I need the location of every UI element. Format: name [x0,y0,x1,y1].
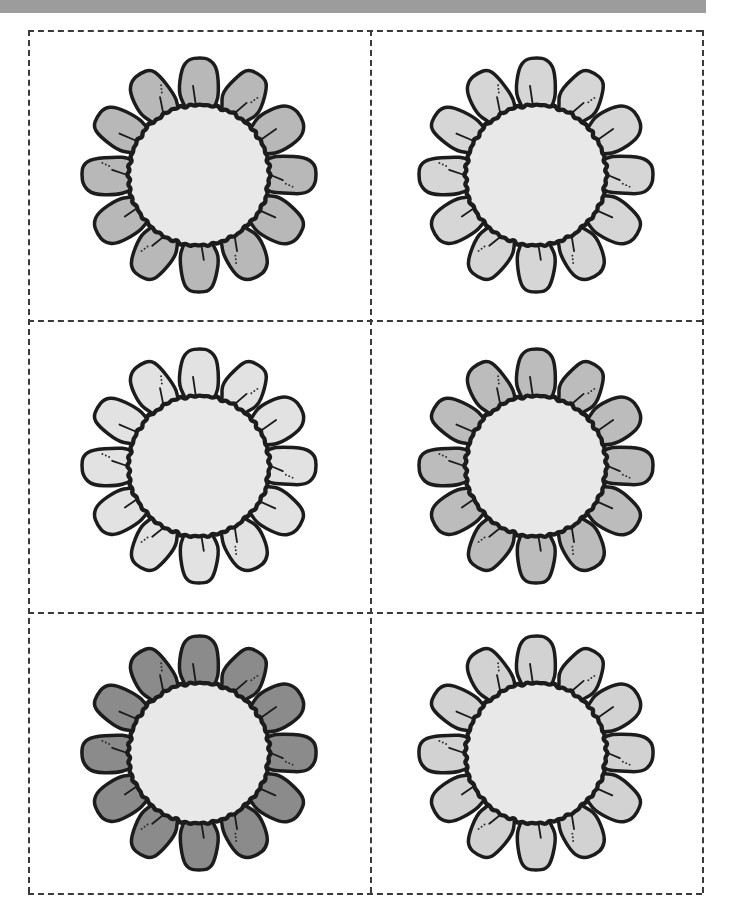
flower-cell-bottom-left[interactable] [28,612,370,893]
petal-speck [161,383,163,385]
petal-speck [442,455,444,457]
petal-speck [571,546,573,548]
petal-speck [497,379,499,381]
petal-speck [101,453,103,455]
petal-speck [253,390,255,392]
petal-speck [256,674,258,676]
petal-speck [497,662,499,664]
petal-speck [478,541,480,543]
flower-center-disc [127,396,270,537]
petal-speck [572,258,574,260]
petal-speck [498,669,500,671]
flower-illustration [411,628,661,878]
petal-speck [587,101,589,103]
petal-speck [285,760,287,762]
cut-line-bottom [28,893,702,895]
petal-speck [497,88,499,90]
petal-speck [250,101,252,103]
petal-speck [590,390,592,392]
petal-speck [288,475,290,477]
petal-speck [161,669,163,671]
petal-speck [572,553,574,555]
petal-speck [445,743,447,745]
flower-cell-middle-left[interactable] [28,320,370,612]
flower-cell-middle-right[interactable] [370,320,702,612]
petal-speck [285,183,287,185]
petal-speck [629,763,631,765]
petal-speck [629,186,631,188]
scanner-band [0,0,706,13]
petal-speck [438,162,440,164]
petal-speck [292,477,294,479]
petal-speck [234,546,236,548]
petal-speck [590,677,592,679]
petal-speck [256,97,258,99]
petal-speck [108,456,110,458]
petal-speck [571,255,573,257]
flower-illustration [411,341,661,591]
petal-speck [622,183,624,185]
petal-speck [160,665,162,667]
petal-speck [144,248,146,250]
petal-speck [438,453,440,455]
petal-speck [160,379,162,381]
petal-speck [141,541,143,543]
petal-speck [481,248,483,250]
petal-speck [572,836,574,838]
petal-speck [141,827,143,829]
petal-speck [288,762,290,764]
flower-center-disc [464,105,607,246]
petal-speck [285,474,287,476]
petal-speck [442,164,444,166]
petal-speck [498,383,500,385]
petal-speck [292,186,294,188]
petal-speck [235,839,237,841]
flower-cell-top-left[interactable] [28,30,370,320]
petal-speck [160,88,162,90]
petal-speck [438,740,440,742]
petal-speck [587,679,589,681]
petal-speck [622,474,624,476]
petal-speck [147,823,149,825]
petal-speck [234,832,236,834]
petal-speck [484,823,486,825]
petal-speck [234,255,236,257]
petal-speck [147,246,149,248]
petal-speck [105,164,107,166]
petal-speck [593,388,595,390]
petal-speck [622,760,624,762]
petal-speck [445,456,447,458]
petal-speck [105,741,107,743]
worksheet-page [0,0,729,923]
petal-speck [108,743,110,745]
petal-speck [101,162,103,164]
petal-speck [625,184,627,186]
petal-speck [442,741,444,743]
petal-speck [593,674,595,676]
flower-center-disc [127,682,270,823]
petal-speck [141,250,143,252]
petal-speck [571,832,573,834]
petal-speck [292,763,294,765]
petal-speck [497,665,499,667]
petal-speck [497,84,499,86]
petal-speck [478,827,480,829]
petal-speck [572,262,574,264]
flower-illustration [74,50,324,300]
petal-speck [587,392,589,394]
petal-speck [144,825,146,827]
petal-speck [481,825,483,827]
flower-cell-bottom-right[interactable] [370,612,702,893]
petal-speck [235,553,237,555]
petal-speck [445,165,447,167]
flower-grid [28,30,702,893]
cut-line-right [702,30,704,893]
petal-speck [256,388,258,390]
petal-speck [498,92,500,94]
petal-speck [160,662,162,664]
petal-speck [108,165,110,167]
petal-speck [572,839,574,841]
flower-cell-top-right[interactable] [370,30,702,320]
flower-center-disc [464,682,607,823]
petal-speck [478,250,480,252]
